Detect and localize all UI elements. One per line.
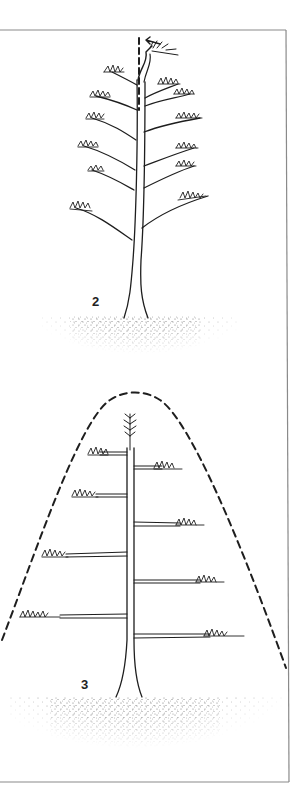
panel-3-label: 3 (81, 677, 88, 692)
panel-2-tree (70, 37, 208, 318)
panel-2-ground (40, 316, 240, 386)
panel-3-ground (10, 696, 285, 788)
conical-outline-dashed (2, 393, 286, 669)
panel-3-tree (2, 393, 286, 698)
illustration-canvas (0, 0, 305, 808)
panel-2-label: 2 (92, 294, 99, 309)
